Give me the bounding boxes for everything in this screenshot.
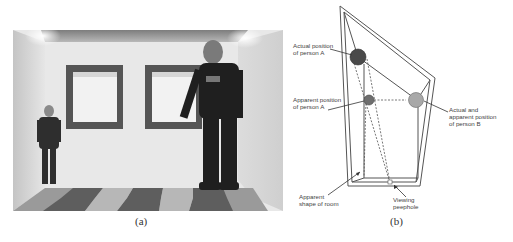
person-b-marker [409, 93, 424, 108]
caption-a: (a) [135, 215, 147, 227]
label-apparent-position-a: Apparent position of person A [293, 96, 341, 110]
label-actual-position-a: Actual position of person A [293, 42, 333, 56]
ames-room-diagram: Actual position of person A Apparent pos… [290, 0, 513, 242]
ames-room-photo [13, 30, 283, 211]
person-a-actual-marker [350, 49, 366, 65]
peephole-marker [388, 180, 392, 184]
label-position-b: Actual and apparent position of person B [449, 106, 496, 127]
photo-illustration [13, 30, 283, 211]
label-viewing-peephole: Viewing peephole [393, 196, 418, 210]
label-apparent-room-shape: Apparent shape of room [299, 193, 339, 207]
person-a-apparent-marker [364, 95, 374, 105]
caption-b: (b) [390, 215, 403, 227]
